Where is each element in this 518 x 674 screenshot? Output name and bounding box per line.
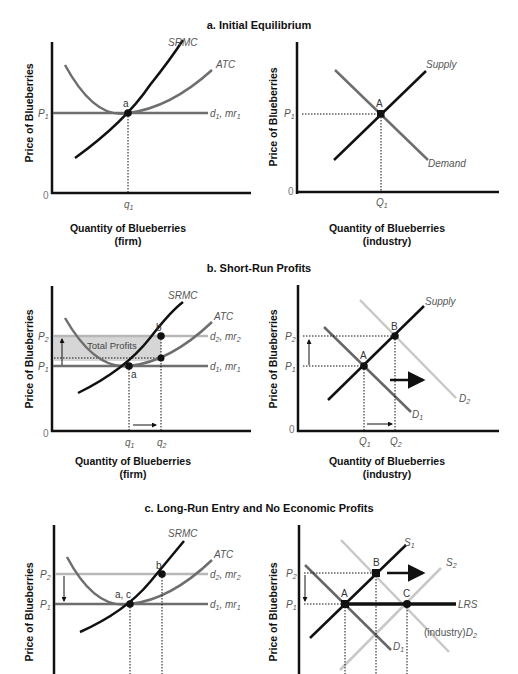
p1-label: P1 bbox=[38, 361, 49, 373]
p2-label: P2 bbox=[286, 568, 297, 580]
atc-label: ATC bbox=[213, 311, 234, 322]
point-b bbox=[158, 570, 166, 578]
demand-d2-curve bbox=[360, 300, 456, 398]
origin-label: 0 bbox=[43, 428, 49, 439]
x-axis-label: Quantity of Blueberries bbox=[329, 455, 445, 467]
y-axis-label: Price of Blueberries bbox=[267, 309, 279, 408]
x-axis-label: Quantity of Blueberries bbox=[329, 222, 445, 234]
atc-point-at-q2 bbox=[158, 355, 165, 362]
point-a-label: a bbox=[123, 98, 129, 109]
y-axis-label: Price of Blueberries bbox=[23, 63, 35, 162]
d2-mr2-label: d2, mr2 bbox=[210, 569, 241, 581]
equilibrium-point-a bbox=[124, 109, 132, 117]
y-axis-label: Price of Blueberries bbox=[267, 67, 279, 166]
demand-label: Demand bbox=[428, 158, 466, 169]
lrs-label: LRS bbox=[458, 599, 478, 610]
point-b-label: b bbox=[156, 322, 162, 333]
d1-mr1-label: d1, mr1 bbox=[210, 108, 241, 120]
point-C bbox=[403, 600, 411, 608]
panel-c-firm-graph: Price of Blueberries a, c b P2 P1 SRMC A… bbox=[23, 525, 241, 674]
point-B-label: B bbox=[391, 321, 398, 332]
point-A bbox=[341, 600, 349, 608]
p2-label: P2 bbox=[285, 331, 296, 343]
point-A-label: A bbox=[360, 350, 367, 361]
supply-s2-curve bbox=[340, 568, 441, 670]
equilibrium-point-A bbox=[377, 110, 385, 118]
total-profits-label: Total Profits bbox=[87, 340, 137, 351]
supply-label: Supply bbox=[425, 296, 457, 307]
x-axis-sublabel: (industry) bbox=[363, 468, 411, 480]
d1-label: D1 bbox=[412, 409, 423, 421]
q1-label: q1 bbox=[124, 199, 134, 211]
d1-mr1-label: d1, mr1 bbox=[210, 599, 241, 611]
q1-label: q1 bbox=[125, 437, 135, 449]
srmc-curve bbox=[80, 541, 184, 632]
atc-curve bbox=[65, 65, 212, 114]
panel-b-firm-graph: Price of Blueberries 0 b a Total Profits… bbox=[23, 286, 251, 480]
d1-mr1-label: d1, mr1 bbox=[210, 361, 241, 373]
supply-label: Supply bbox=[426, 59, 458, 70]
d1-label: D1 bbox=[393, 641, 404, 653]
panel-a-title: a. Initial Equilibrium bbox=[207, 19, 312, 31]
srmc-label: SRMC bbox=[168, 37, 198, 48]
supply-curve bbox=[328, 306, 424, 400]
atc-label: ATC bbox=[215, 59, 236, 70]
origin-label: 0 bbox=[289, 424, 295, 435]
srmc-label: SRMC bbox=[168, 528, 198, 539]
p1-label: P1 bbox=[284, 108, 295, 120]
p2-label: P2 bbox=[38, 331, 49, 343]
point-C-label: C bbox=[403, 588, 410, 599]
q2-label: q2 bbox=[157, 437, 167, 449]
point-A-label: A bbox=[341, 588, 348, 599]
panel-a-firm-graph: Price of Blueberries 0 a P1 q1 SRMC ATC … bbox=[23, 37, 251, 247]
y-axis-label: Price of Blueberries bbox=[23, 309, 35, 408]
panel-a-industry-graph: Price of Blueberries 0 A P1 Q1 Supply De… bbox=[267, 42, 499, 247]
Q1-label: Q1 bbox=[376, 197, 388, 209]
x-axis-label: Quantity of Blueberries bbox=[75, 455, 191, 467]
d2-label: (industry)D2 bbox=[424, 627, 477, 639]
s1-label: S1 bbox=[404, 537, 415, 549]
p1-label: P1 bbox=[38, 108, 49, 120]
y-axis-label: Price of Blueberries bbox=[267, 562, 279, 661]
point-ac-label: a, c bbox=[115, 589, 131, 600]
panel-c-title: c. Long-Run Entry and No Economic Profit… bbox=[144, 502, 373, 514]
point-b-label: b bbox=[156, 560, 162, 571]
origin-label: 0 bbox=[43, 190, 49, 201]
Q2-label: Q2 bbox=[390, 436, 402, 448]
d2-mr2-label: d2, mr2 bbox=[210, 331, 241, 343]
x-axis-sublabel: (industry) bbox=[363, 235, 411, 247]
atc-label: ATC bbox=[213, 549, 234, 560]
panel-b-title: b. Short-Run Profits bbox=[207, 262, 312, 274]
p2-label: P2 bbox=[40, 569, 51, 581]
point-A-label: A bbox=[376, 98, 383, 109]
point-A bbox=[360, 362, 368, 370]
point-B bbox=[391, 332, 399, 340]
x-axis-sublabel: (firm) bbox=[115, 235, 142, 247]
srmc-label: SRMC bbox=[168, 290, 198, 301]
x-axis-label: Quantity of Blueberries bbox=[70, 222, 186, 234]
panel-c-industry-graph: Price of Blueberries A B C P2 P1 S1 S2 L… bbox=[267, 525, 478, 674]
p1-label: P1 bbox=[285, 361, 296, 373]
origin-label: 0 bbox=[288, 186, 294, 197]
point-B bbox=[372, 569, 380, 577]
x-axis-sublabel: (firm) bbox=[120, 468, 147, 480]
p1-label: P1 bbox=[286, 599, 297, 611]
y-axis-label: Price of Blueberries bbox=[23, 562, 35, 661]
point-a-c bbox=[126, 600, 134, 608]
Q1-label: Q1 bbox=[359, 436, 371, 448]
perfect-competition-diagram: a. Initial Equilibrium Price of Blueberr… bbox=[0, 0, 518, 674]
point-a-label: a bbox=[131, 369, 137, 380]
point-b bbox=[157, 332, 165, 340]
atc-curve bbox=[67, 557, 212, 605]
point-B-label: B bbox=[373, 557, 380, 568]
s2-label: S2 bbox=[446, 557, 457, 569]
panel-b-industry-graph: Price of Blueberries 0 A B P2 P1 Q1 Q2 S… bbox=[267, 285, 499, 480]
p1-label: P1 bbox=[40, 599, 51, 611]
d2-label: D2 bbox=[459, 393, 470, 405]
